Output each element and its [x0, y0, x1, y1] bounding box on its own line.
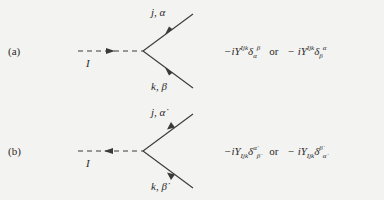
scalar-arrow-left-icon: [104, 148, 113, 154]
formula-a-term2-delta-sub: β: [319, 52, 323, 60]
fermion-top-line-a: [143, 14, 193, 51]
scalar-arrow-right-icon: [106, 48, 115, 54]
formula-a-connector: or: [269, 45, 278, 57]
formula-a-term1-delta-sub: α: [253, 52, 257, 60]
scalar-label-b: I: [86, 157, 90, 169]
diagram-b: [78, 114, 193, 188]
formula-b-term2-prefix: − iY: [287, 145, 306, 157]
formula-b-term1-prefix: −iY: [224, 145, 241, 157]
formula-b-term1-sub: Ijk: [241, 152, 248, 160]
fermion-top-label-b: j, α̇: [151, 106, 165, 118]
vertex-formula-a: −iYIjkδαβor− iYIjkδβα: [224, 44, 327, 60]
fermion-bottom-label-b: k, β̇: [151, 180, 167, 192]
vertex-formula-b: −iYIjkδα̇β̇or− iYIjkδβ̇α̇: [224, 144, 327, 160]
formula-b-term2-delta-sub: α̇: [323, 152, 327, 160]
fermion-bottom-label-a: k, β: [151, 80, 167, 92]
figure-page: (a) I j, α k, β −iYIjkδαβor− iYIjkδβα (b…: [0, 0, 384, 200]
fermion-top-label-a: j, α: [151, 6, 165, 18]
formula-a-term2-prefix: − iY: [287, 45, 306, 57]
scalar-label-a: I: [86, 57, 90, 69]
formula-a-term1-delta-sup: β: [257, 44, 261, 52]
fermion-top-line-b: [143, 114, 193, 151]
formula-a-term2-delta-sup: α: [323, 44, 327, 52]
formula-a-term1-prefix: −iY: [224, 45, 241, 57]
formula-b-term2-delta-sup: β̇: [319, 144, 323, 152]
feynman-diagrams: [0, 0, 384, 200]
formula-b-connector: or: [269, 145, 278, 157]
formula-b-term1-delta-sup: α̇: [253, 144, 257, 152]
diagram-a: [78, 14, 193, 88]
formula-b-term1-delta-sub: β̇: [257, 152, 261, 160]
formula-a-term1-sup: Ijk: [241, 44, 248, 52]
panel-label-a: (a): [8, 45, 20, 57]
panel-label-b: (b): [8, 145, 21, 157]
